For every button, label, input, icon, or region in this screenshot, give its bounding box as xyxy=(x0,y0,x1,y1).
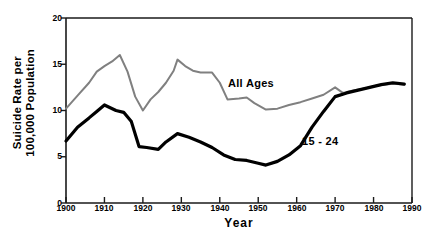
x-tick-label: 1930 xyxy=(161,204,201,213)
series-line-15---24 xyxy=(66,83,404,165)
x-tick-label: 1950 xyxy=(238,204,278,213)
x-axis-ticks xyxy=(66,197,412,203)
y-tick-label: 20 xyxy=(42,14,62,23)
series-label-15-24: 15 - 24 xyxy=(302,135,338,147)
y-tick-label: 15 xyxy=(42,60,62,69)
x-tick-label: 1980 xyxy=(354,204,394,213)
x-tick-label: 1940 xyxy=(200,204,240,213)
x-tick-label: 1970 xyxy=(315,204,355,213)
y-axis-title-line-2: 100,000 Population xyxy=(25,49,37,157)
x-tick-label: 1960 xyxy=(277,204,317,213)
x-axis-title: Year xyxy=(66,216,412,230)
y-tick-label: 5 xyxy=(42,152,62,161)
x-tick-label: 1990 xyxy=(392,204,426,213)
series-layer xyxy=(66,55,404,165)
x-tick-label: 1900 xyxy=(46,204,86,213)
y-tick-label: 10 xyxy=(42,106,62,115)
x-tick-label: 1910 xyxy=(84,204,124,213)
series-label-all-ages: All Ages xyxy=(228,77,274,89)
y-axis-title-line-1: Suicide Rate per xyxy=(12,56,24,149)
x-tick-label: 1920 xyxy=(123,204,163,213)
